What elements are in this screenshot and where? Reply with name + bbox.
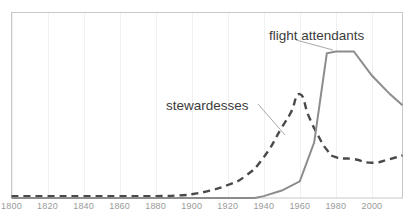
x-tick-label-2000: 2000 <box>361 201 382 211</box>
x-tick-label-1860: 1860 <box>109 201 130 211</box>
x-tick-label-1880: 1880 <box>145 201 166 211</box>
x-tick-label-1920: 1920 <box>217 201 238 211</box>
x-tick-label-1800: 1800 <box>1 201 22 211</box>
chart-container: 1800182018401860188019001920194019601980… <box>0 0 412 224</box>
leader-line-stewardesses <box>258 104 285 135</box>
x-tick-label-1840: 1840 <box>73 201 94 211</box>
x-tick-label-1900: 1900 <box>181 201 202 211</box>
x-tick-label-1940: 1940 <box>253 201 274 211</box>
x-tick-label-1960: 1960 <box>289 201 310 211</box>
series-annotation-flight-attendants: flight attendants <box>269 28 364 43</box>
series-line-flight-attendants <box>12 51 403 198</box>
x-tick-label-1820: 1820 <box>37 201 58 211</box>
series-annotation-stewardesses: stewardesses <box>166 98 249 113</box>
series-lines-group <box>12 51 403 198</box>
x-tick-label-1980: 1980 <box>325 201 346 211</box>
